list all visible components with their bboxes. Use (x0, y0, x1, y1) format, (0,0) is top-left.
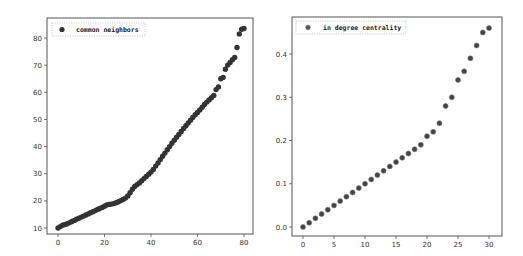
legend: common neighbors (52, 23, 145, 36)
scatter-points (55, 26, 246, 231)
y-tick-label: 60 (33, 89, 42, 97)
chart-common-neighbors: 020406080 1020304050607080 common neighb… (33, 18, 253, 247)
x-tick-label: 30 (485, 241, 494, 249)
data-point (381, 168, 386, 173)
scatter-points (301, 26, 492, 230)
data-point (338, 199, 343, 204)
data-point (387, 164, 392, 169)
x-tick-label: 25 (454, 241, 463, 249)
data-point (313, 216, 318, 221)
x-tick-label: 80 (240, 239, 249, 247)
data-point (234, 45, 239, 50)
data-point (437, 121, 442, 126)
y-tick-label: 10 (33, 225, 42, 233)
data-point (307, 220, 312, 225)
y-axis-ticks: 0.00.10.20.30.4 (276, 51, 292, 232)
data-point (400, 155, 405, 160)
data-point (456, 77, 461, 82)
x-tick-label: 5 (332, 241, 336, 249)
data-point (363, 181, 368, 186)
data-point (356, 186, 361, 191)
data-point (431, 129, 436, 134)
data-point (394, 160, 399, 165)
x-axis-ticks: 020406080 (56, 234, 249, 247)
data-point (369, 177, 374, 182)
data-point (425, 134, 430, 139)
x-tick-label: 40 (147, 239, 156, 247)
data-point (418, 142, 423, 147)
data-point (344, 194, 349, 199)
legend-marker-icon (306, 25, 311, 30)
data-point (375, 173, 380, 178)
data-point (474, 43, 479, 48)
data-point (232, 55, 237, 60)
legend-label: common neighbors (76, 26, 139, 34)
data-point (487, 26, 492, 31)
data-point (443, 103, 448, 108)
data-point (468, 56, 473, 61)
data-point (216, 84, 221, 89)
data-point (480, 30, 485, 35)
data-point (211, 93, 216, 98)
y-tick-label: 0.2 (276, 137, 287, 145)
y-tick-label: 0.3 (276, 94, 287, 102)
data-point (325, 207, 330, 212)
data-point (332, 203, 337, 208)
y-tick-label: 50 (33, 116, 42, 124)
y-tick-label: 80 (33, 35, 42, 43)
data-point (406, 151, 411, 156)
x-tick-label: 0 (301, 241, 305, 249)
y-tick-label: 20 (33, 197, 42, 205)
data-point (241, 26, 246, 31)
x-tick-label: 10 (361, 241, 370, 249)
y-axis-ticks: 1020304050607080 (33, 35, 47, 233)
data-point (319, 212, 324, 217)
y-tick-label: 70 (33, 62, 42, 70)
legend: in degree centrality (296, 21, 406, 34)
data-point (220, 75, 225, 80)
x-tick-label: 20 (100, 239, 109, 247)
data-point (462, 69, 467, 74)
x-tick-label: 60 (193, 239, 202, 247)
y-tick-label: 30 (33, 170, 42, 178)
x-tick-label: 20 (423, 241, 432, 249)
data-point (237, 31, 242, 36)
data-point (350, 190, 355, 195)
y-tick-label: 40 (33, 143, 42, 151)
plot-frame (47, 18, 253, 234)
x-axis-ticks: 051015202530 (301, 236, 494, 249)
legend-marker-icon (59, 27, 64, 32)
data-point (449, 95, 454, 100)
data-point (301, 225, 306, 230)
plot-frame (292, 17, 502, 236)
chart-in-degree-centrality: 051015202530 0.00.10.20.30.4 in degree c… (276, 17, 502, 249)
legend-label: in degree centrality (323, 24, 401, 32)
figure: 020406080 1020304050607080 common neighb… (0, 0, 523, 256)
y-tick-label: 0.1 (276, 180, 287, 188)
x-tick-label: 0 (56, 239, 60, 247)
x-tick-label: 15 (392, 241, 401, 249)
y-tick-label: 0.4 (276, 51, 288, 59)
data-point (412, 147, 417, 152)
y-tick-label: 0.0 (276, 224, 287, 232)
